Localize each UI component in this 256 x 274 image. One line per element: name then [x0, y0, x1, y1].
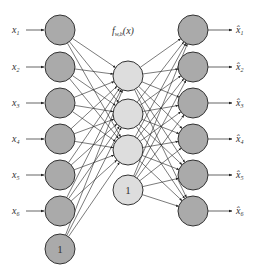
edge [143, 69, 178, 74]
output-node [178, 124, 208, 154]
edge [142, 195, 178, 207]
input-node [45, 52, 75, 82]
input-node [45, 124, 75, 154]
input-label: x6 [11, 205, 19, 217]
input-node [45, 15, 75, 45]
output-node [178, 160, 208, 190]
input-label: x2 [11, 61, 19, 73]
hidden-node [113, 61, 143, 91]
input-node [45, 88, 75, 118]
autoencoder-diagram: 11 x1x2x3x4x5x6x̂1x̂2x̂3x̂4x̂5x̂6 fw,b(x… [0, 0, 256, 274]
hidden-node [113, 99, 143, 129]
output-label: x̂3 [235, 97, 243, 109]
edge [137, 79, 184, 138]
edge [68, 162, 119, 236]
edge [69, 42, 118, 103]
edge [68, 88, 119, 162]
edge [71, 86, 117, 129]
bias-label: 1 [125, 184, 131, 196]
edge [137, 42, 184, 102]
edge [71, 160, 117, 201]
input-label: x5 [11, 169, 19, 181]
hidden-node [113, 135, 143, 165]
edge [75, 69, 113, 74]
output-node [178, 196, 208, 226]
function-label: fw,b(x) [112, 25, 135, 37]
output-label: x̂5 [235, 169, 243, 181]
input-node [45, 160, 75, 190]
edge [139, 86, 182, 128]
input-label: x1 [11, 24, 19, 36]
bias-label: 1 [57, 243, 63, 255]
output-label: x̂6 [235, 205, 243, 217]
input-node [45, 196, 75, 226]
output-label: x̂4 [235, 133, 243, 145]
output-node [178, 15, 208, 45]
edge [143, 178, 179, 186]
edge [140, 148, 181, 180]
edge [142, 155, 179, 169]
output-label: x̂1 [235, 24, 243, 36]
output-node [178, 88, 208, 118]
input-label: x4 [11, 133, 19, 145]
input-label: x3 [11, 97, 19, 109]
edge [140, 39, 181, 68]
output-node [178, 52, 208, 82]
nodes: 11 [45, 15, 208, 264]
output-label: x̂2 [235, 61, 243, 73]
edge [71, 124, 117, 165]
